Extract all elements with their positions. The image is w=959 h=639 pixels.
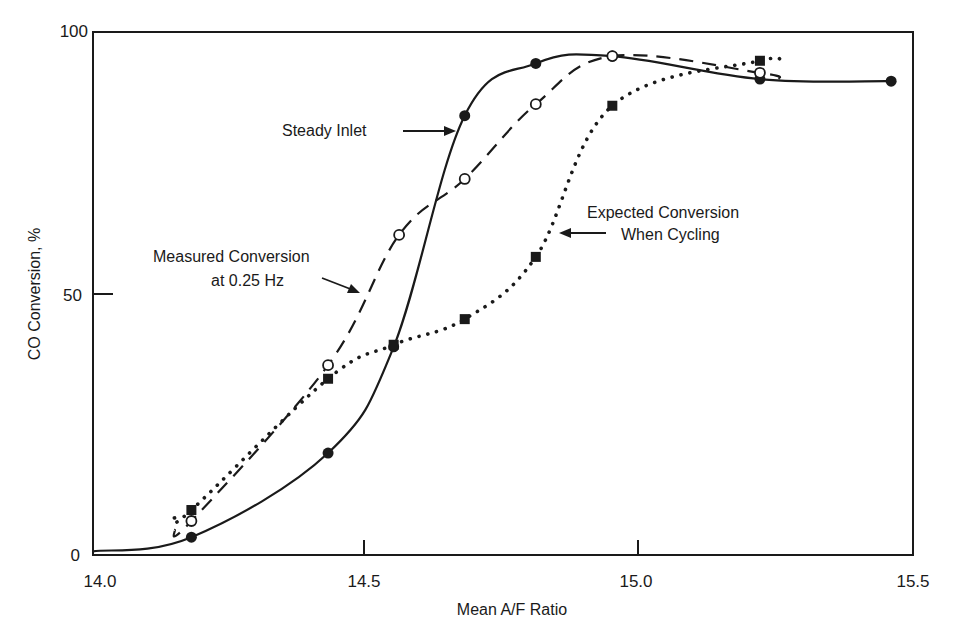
data-point-filled-square — [531, 252, 541, 262]
arrowhead-steady-inlet — [444, 126, 456, 136]
y-tick-label-0: 0 — [71, 546, 80, 565]
data-point-open-circle — [607, 51, 617, 61]
data-point-filled-circle — [459, 110, 470, 121]
y-tick-label-2: 100 — [60, 22, 88, 41]
data-point-filled-circle — [886, 76, 897, 87]
x-tick-label-3: 15.5 — [896, 572, 929, 591]
arrow-measured — [322, 278, 353, 290]
annotation-expected-line1: Expected Conversion — [587, 204, 739, 221]
data-point-filled-square — [323, 374, 333, 384]
x-tick-label-2: 15.0 — [619, 572, 652, 591]
data-point-open-circle — [460, 174, 470, 184]
y-axis-label: CO Conversion, % — [26, 228, 43, 361]
data-point-filled-square — [755, 56, 765, 66]
measured-conversion-curve — [174, 55, 780, 537]
data-point-filled-square — [607, 101, 617, 111]
data-point-filled-circle — [530, 58, 541, 69]
data-point-open-circle — [394, 230, 404, 240]
data-point-filled-circle — [323, 448, 334, 459]
annotation-steady-inlet: Steady Inlet — [282, 122, 367, 139]
data-point-filled-circle — [186, 532, 197, 543]
data-point-open-circle — [755, 68, 765, 78]
data-point-open-circle — [186, 516, 196, 526]
data-point-open-circle — [323, 360, 333, 370]
y-tick-label-1: 50 — [63, 286, 82, 305]
x-tick-label-1: 14.5 — [347, 572, 380, 591]
annotation-measured-line1: Measured Conversion — [153, 248, 310, 265]
data-point-filled-square — [186, 505, 196, 515]
arrowhead-expected — [559, 228, 571, 238]
plot-frame — [93, 32, 913, 555]
annotation-expected-line2: When Cycling — [621, 226, 720, 243]
annotation-measured-line2: at 0.25 Hz — [211, 272, 284, 289]
expected-conversion-curve — [174, 58, 780, 523]
data-point-filled-square — [460, 314, 470, 324]
chart: 14.0 14.5 15.0 15.5 0 50 100 Mean A/F Ra… — [0, 0, 959, 639]
data-point-filled-square — [389, 340, 399, 350]
x-axis-label: Mean A/F Ratio — [457, 601, 567, 618]
data-point-open-circle — [531, 99, 541, 109]
x-tick-label-0: 14.0 — [83, 572, 116, 591]
